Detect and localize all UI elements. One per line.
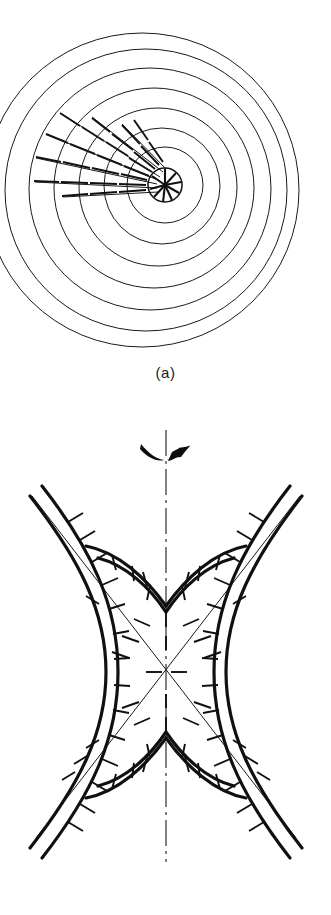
radial-hatch-ticks (34, 113, 163, 196)
curved-direction-arrow (140, 444, 190, 461)
hyperbolic-field-line-drawing (0, 400, 331, 870)
figure-panel-a: (a) (0, 0, 331, 400)
concentric-field-line-drawing (0, 0, 331, 360)
figure-panel-b: (b) (0, 400, 331, 915)
central-hub (148, 168, 182, 202)
figure-sheet: (a) (0, 0, 331, 915)
panel-a-caption: (a) (0, 364, 331, 381)
